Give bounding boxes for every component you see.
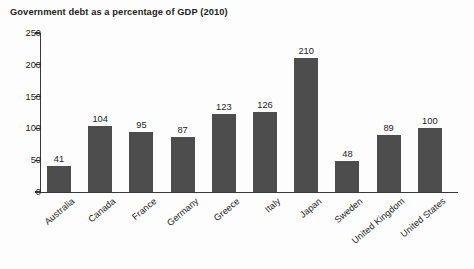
bar-value-label: 100 <box>422 116 438 126</box>
bar: 104 <box>88 126 112 192</box>
y-axis-tick-label: 100 <box>11 123 41 133</box>
bar: 87 <box>171 137 195 192</box>
bar-value-label: 41 <box>54 154 64 164</box>
bar: 100 <box>418 128 442 192</box>
bar-value-label: 210 <box>298 46 314 56</box>
y-axis-tick-label: 150 <box>11 92 41 102</box>
bar-value-label: 48 <box>342 149 352 159</box>
bar-value-label: 126 <box>257 100 273 110</box>
y-axis-ticks: 050100150200250 <box>0 0 41 269</box>
bar: 210 <box>294 58 318 192</box>
bar-value-label: 123 <box>216 102 232 112</box>
bar-value-label: 87 <box>177 125 187 135</box>
x-axis-category-label: Australia <box>43 196 77 227</box>
y-axis-tick-label: 250 <box>11 28 41 38</box>
bar-value-label: 89 <box>383 123 393 133</box>
bar: 95 <box>129 132 153 192</box>
bar: 41 <box>47 166 71 192</box>
x-axis-category-label: Japan <box>298 196 324 220</box>
x-axis-line <box>40 192 458 193</box>
y-axis-tick-label: 50 <box>11 155 41 165</box>
bar-slot: 41 <box>47 33 71 192</box>
chart-title: Government debt as a percentage of GDP (… <box>10 7 228 17</box>
bar-slot: 126 <box>253 33 277 192</box>
x-axis-category-label: France <box>130 196 158 222</box>
bar-slot: 48 <box>335 33 359 192</box>
plot-area: 4110495871231262104889100 <box>41 33 458 192</box>
bar: 48 <box>335 161 359 192</box>
y-axis-tick-label: 200 <box>11 60 41 70</box>
x-axis-category-label: Sweden <box>333 196 365 225</box>
bar-value-label: 95 <box>136 120 146 130</box>
bar-value-label: 104 <box>92 114 108 124</box>
bar-slot: 100 <box>418 33 442 192</box>
x-axis-category-label: Germany <box>165 196 200 228</box>
bar-slot: 210 <box>294 33 318 192</box>
y-axis-tick-label: 0 <box>11 187 41 197</box>
bar: 89 <box>377 135 401 192</box>
bar: 123 <box>212 114 236 192</box>
bar: 126 <box>253 112 277 192</box>
bar-slot: 89 <box>377 33 401 192</box>
bar-chart: Government debt as a percentage of GDP (… <box>0 0 474 269</box>
bar-slot: 104 <box>88 33 112 192</box>
x-axis-category-label: Canada <box>87 196 118 224</box>
x-axis-category-label: Italy <box>263 196 282 215</box>
x-axis-category-label: Greece <box>212 196 242 223</box>
bar-slot: 123 <box>212 33 236 192</box>
bar-slot: 95 <box>129 33 153 192</box>
bar-slot: 87 <box>171 33 195 192</box>
